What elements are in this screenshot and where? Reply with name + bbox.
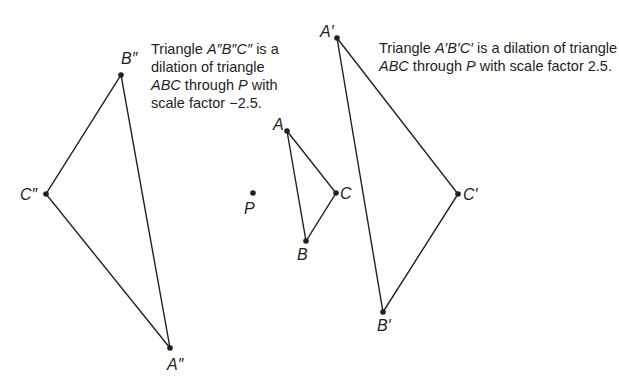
label-p: P <box>244 201 255 217</box>
caption-text: Triangle <box>379 40 435 56</box>
center-name: P <box>466 58 476 74</box>
caption-text: Triangle <box>151 41 207 57</box>
caption-text: is a <box>252 41 279 57</box>
label-c: C <box>340 186 352 202</box>
label-b: B <box>297 247 308 263</box>
point-b <box>303 238 309 244</box>
label-c-prime: C′ <box>463 187 478 203</box>
point-c-prime <box>455 191 461 197</box>
label-c-double-prime: C″ <box>20 187 37 203</box>
triangle-a-prime-b-prime-c-prime <box>337 38 458 312</box>
triangle-name: A″B″C″ <box>207 41 252 57</box>
caption-positive-dilation: Triangle A′B′C′ is a dilation of triangl… <box>379 39 619 75</box>
point-c-double-prime <box>43 191 49 197</box>
point-c <box>333 190 339 196</box>
triangle-name: A′B′C′ <box>435 40 473 56</box>
point-b-double-prime <box>118 72 124 78</box>
caption-text: is a dilation of triangle <box>473 40 617 56</box>
triangle-name: ABC <box>379 58 409 74</box>
point-a-double-prime <box>167 345 173 351</box>
caption-text: with scale factor 2.5. <box>476 58 612 74</box>
caption-text: dilation of triangle <box>151 58 301 76</box>
point-p <box>250 190 256 196</box>
caption-text: scale factor −2.5. <box>151 94 301 112</box>
label-a: A <box>273 117 284 133</box>
point-b-prime <box>380 309 386 315</box>
triangle-a-double-prime <box>46 75 170 348</box>
label-a-prime: A′ <box>320 24 334 40</box>
triangle-name: ABC <box>151 77 181 93</box>
caption-negative-dilation: Triangle A″B″C″ is a dilation of triangl… <box>151 40 301 112</box>
caption-text: with <box>248 77 278 93</box>
label-b-prime: B′ <box>377 318 391 334</box>
caption-text: through <box>181 77 238 93</box>
point-a-prime <box>334 35 340 41</box>
triangle-abc <box>287 131 336 241</box>
label-a-double-prime: A″ <box>167 357 183 373</box>
center-name: P <box>238 77 248 93</box>
caption-text: through <box>409 58 466 74</box>
label-b-double-prime: B″ <box>121 51 137 67</box>
point-a <box>284 128 290 134</box>
